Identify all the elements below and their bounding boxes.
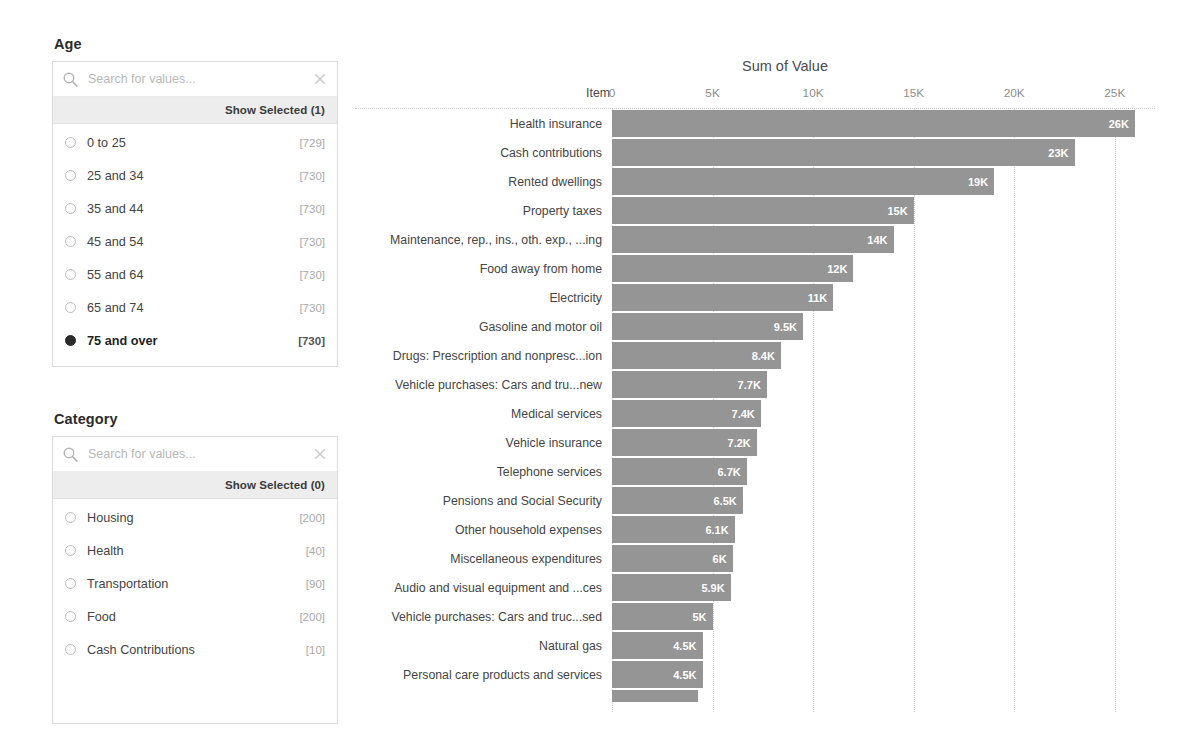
filter-option-count: [40]	[306, 545, 325, 557]
bar[interactable]: 15K	[612, 197, 914, 224]
close-icon[interactable]	[313, 72, 327, 86]
radio-icon[interactable]	[65, 137, 76, 148]
radio-icon[interactable]	[65, 611, 76, 622]
bar-value-label: 11K	[808, 292, 834, 304]
bar-track: 7.7K	[612, 370, 1155, 399]
bar-row[interactable]: Personal care products and services4.5K	[355, 660, 1155, 689]
bar[interactable]: 8.4K	[612, 342, 781, 369]
bar[interactable]: 5K	[612, 603, 713, 630]
bar[interactable]: 6.5K	[612, 487, 743, 514]
radio-icon[interactable]	[65, 335, 76, 346]
filter-option-label: Transportation	[87, 577, 306, 591]
bar-category-label: Cash contributions	[355, 146, 612, 160]
bar-row[interactable]: Rented dwellings19K	[355, 167, 1155, 196]
radio-icon[interactable]	[65, 644, 76, 655]
radio-icon[interactable]	[65, 578, 76, 589]
radio-icon[interactable]	[65, 269, 76, 280]
bar-row[interactable]: Telephone services6.7K	[355, 457, 1155, 486]
filter-option[interactable]: 65 and 74[730]	[53, 291, 337, 324]
filter-option-label: 45 and 54	[87, 235, 299, 249]
bar-row[interactable]: Cash contributions23K	[355, 138, 1155, 167]
bar-row[interactable]: Vehicle purchases: Cars and tru...new7.7…	[355, 370, 1155, 399]
search-input-age[interactable]	[88, 72, 313, 86]
radio-icon[interactable]	[65, 170, 76, 181]
show-selected-bar-category[interactable]: Show Selected (0)	[53, 472, 337, 499]
filter-option[interactable]: Food[200]	[53, 600, 337, 633]
bar-category-label: Pensions and Social Security	[355, 494, 612, 508]
bar[interactable]: 4.5K	[612, 632, 703, 659]
bar[interactable]: 4.5K	[612, 661, 703, 688]
filter-option[interactable]: 35 and 44[730]	[53, 192, 337, 225]
radio-icon[interactable]	[65, 545, 76, 556]
bar[interactable]: 5.9K	[612, 574, 731, 601]
bar-track: 5.9K	[612, 573, 1155, 602]
x-axis-tick-label: 10K	[803, 86, 824, 100]
bar-track: 9.5K	[612, 312, 1155, 341]
bar[interactable]: 6.7K	[612, 458, 747, 485]
filter-option[interactable]: 25 and 34[730]	[53, 159, 337, 192]
bar[interactable]: 12K	[612, 255, 853, 282]
bar-row-clipped[interactable]	[355, 689, 1155, 703]
bar[interactable]: 11K	[612, 284, 833, 311]
bar-row[interactable]: Electricity11K	[355, 283, 1155, 312]
bar-track: 4.5K	[612, 631, 1155, 660]
search-icon	[62, 446, 79, 463]
filter-title-category: Category	[54, 411, 338, 427]
close-icon[interactable]	[313, 447, 327, 461]
bar[interactable]: 14K	[612, 226, 894, 253]
bar[interactable]	[612, 690, 698, 702]
search-input-category[interactable]	[88, 447, 313, 461]
filter-option-count: [730]	[299, 269, 325, 281]
filter-option-count: [730]	[299, 302, 325, 314]
bar-track: 6.5K	[612, 486, 1155, 515]
bar[interactable]: 9.5K	[612, 313, 803, 340]
bar[interactable]: 7.4K	[612, 400, 761, 427]
bar[interactable]: 6.1K	[612, 516, 735, 543]
filter-option-label: Health	[87, 544, 306, 558]
bar[interactable]: 6K	[612, 545, 733, 572]
bar-category-label: Food away from home	[355, 262, 612, 276]
radio-icon[interactable]	[65, 203, 76, 214]
x-axis-tick-label: 0	[609, 86, 616, 100]
bar-value-label: 4.5K	[673, 640, 702, 652]
filter-title-age: Age	[54, 36, 338, 52]
filter-option[interactable]: Transportation[90]	[53, 567, 337, 600]
filter-option-label: 55 and 64	[87, 268, 299, 282]
filter-option[interactable]: Housing[200]	[53, 501, 337, 534]
bar-track	[612, 689, 1155, 703]
show-selected-bar-age[interactable]: Show Selected (1)	[53, 97, 337, 124]
bar-row[interactable]: Food away from home12K	[355, 254, 1155, 283]
x-axis-tick-label: 15K	[903, 86, 924, 100]
bar-row[interactable]: Medical services7.4K	[355, 399, 1155, 428]
bar[interactable]: 7.2K	[612, 429, 757, 456]
filter-option[interactable]: 55 and 64[730]	[53, 258, 337, 291]
filter-option[interactable]: Health[40]	[53, 534, 337, 567]
bar-row[interactable]: Natural gas4.5K	[355, 631, 1155, 660]
option-list-age: 0 to 25[729]25 and 34[730]35 and 44[730]…	[53, 124, 337, 357]
filter-option[interactable]: 75 and over[730]	[53, 324, 337, 357]
bar-row[interactable]: Property taxes15K	[355, 196, 1155, 225]
radio-icon[interactable]	[65, 512, 76, 523]
bar-row[interactable]: Audio and visual equipment and ...ces5.9…	[355, 573, 1155, 602]
radio-icon[interactable]	[65, 302, 76, 313]
filter-option[interactable]: 45 and 54[730]	[53, 225, 337, 258]
bar[interactable]: 19K	[612, 168, 994, 195]
bar-row[interactable]: Health insurance26K	[355, 109, 1155, 138]
bar-value-label: 8.4K	[752, 350, 781, 362]
radio-icon[interactable]	[65, 236, 76, 247]
bar-row[interactable]: Maintenance, rep., ins., oth. exp., ...i…	[355, 225, 1155, 254]
bar-row[interactable]: Pensions and Social Security6.5K	[355, 486, 1155, 515]
bar-value-label: 7.4K	[732, 408, 761, 420]
bar-row[interactable]: Vehicle purchases: Cars and truc...sed5K	[355, 602, 1155, 631]
filter-option-count: [730]	[299, 236, 325, 248]
bar[interactable]: 26K	[612, 110, 1135, 137]
bar[interactable]: 23K	[612, 139, 1075, 166]
bar-row[interactable]: Vehicle insurance7.2K	[355, 428, 1155, 457]
bar-row[interactable]: Other household expenses6.1K	[355, 515, 1155, 544]
filter-option[interactable]: 0 to 25[729]	[53, 126, 337, 159]
filter-option[interactable]: Cash Contributions[10]	[53, 633, 337, 666]
bar-row[interactable]: Gasoline and motor oil9.5K	[355, 312, 1155, 341]
bar-row[interactable]: Drugs: Prescription and nonpresc...ion8.…	[355, 341, 1155, 370]
bar[interactable]: 7.7K	[612, 371, 767, 398]
bar-row[interactable]: Miscellaneous expenditures6K	[355, 544, 1155, 573]
